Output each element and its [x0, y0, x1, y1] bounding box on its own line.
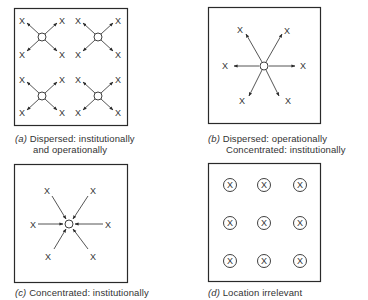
- caption-text: Location irrelevant: [223, 287, 303, 298]
- svg-text:X: X: [239, 96, 245, 106]
- svg-text:X: X: [115, 108, 121, 118]
- svg-text:X: X: [59, 16, 65, 26]
- panel-b: X X X X X X (b) Dispersed: operationally…: [184, 0, 368, 150]
- svg-text:X: X: [115, 16, 121, 26]
- svg-text:X: X: [59, 75, 65, 85]
- diagram-concentrated-institutionally: X X X X X X: [0, 150, 184, 300]
- panel-c: X X X X X X (c) Concentrated: institutio…: [0, 150, 184, 300]
- svg-text:X: X: [261, 256, 267, 266]
- svg-text:X: X: [75, 16, 81, 26]
- panel-a: XX XX XX XX XX XX: [0, 0, 184, 150]
- svg-text:X: X: [227, 180, 233, 190]
- svg-text:X: X: [285, 96, 291, 106]
- diagram-dispersed-both: XX XX XX XX XX XX: [0, 0, 184, 150]
- hub-group: XX XX: [75, 16, 121, 60]
- svg-text:X: X: [105, 220, 111, 230]
- svg-text:X: X: [90, 252, 96, 262]
- diagram-dispersed-operationally: X X X X X X: [184, 0, 368, 150]
- svg-text:X: X: [261, 218, 267, 228]
- svg-text:X: X: [297, 218, 303, 228]
- svg-text:X: X: [297, 180, 303, 190]
- svg-text:X: X: [300, 61, 306, 71]
- hub-group: XX XX: [19, 75, 65, 118]
- svg-text:X: X: [45, 252, 51, 262]
- svg-text:X: X: [261, 180, 267, 190]
- svg-text:X: X: [222, 61, 228, 71]
- caption-text: Dispersed: operationally: [223, 133, 327, 144]
- svg-text:X: X: [19, 50, 25, 60]
- svg-text:X: X: [115, 75, 121, 85]
- svg-text:X: X: [90, 186, 96, 196]
- caption-c: (c) Concentrated: institutionally: [15, 287, 149, 298]
- svg-text:X: X: [75, 50, 81, 60]
- svg-text:X: X: [297, 256, 303, 266]
- svg-text:X: X: [227, 218, 233, 228]
- hub-group: XX XX: [75, 75, 121, 118]
- diagram-location-irrelevant: XXX XXX XXX: [184, 150, 368, 300]
- caption-d: (d) Location irrelevant: [208, 287, 302, 298]
- svg-text:X: X: [237, 25, 243, 35]
- svg-text:X: X: [75, 108, 81, 118]
- caption-tag: (b): [208, 133, 220, 144]
- caption-text: Dispersed: institutionally: [30, 133, 135, 144]
- svg-text:X: X: [19, 108, 25, 118]
- svg-text:X: X: [30, 220, 36, 230]
- caption-text: Concentrated: institutionally: [29, 287, 149, 298]
- svg-text:X: X: [59, 50, 65, 60]
- svg-text:X: X: [44, 186, 50, 196]
- svg-text:X: X: [115, 50, 121, 60]
- caption-tag: (c): [15, 287, 26, 298]
- caption-tag: (a): [15, 133, 27, 144]
- hub-group: XX XX: [19, 16, 65, 60]
- svg-text:X: X: [59, 108, 65, 118]
- caption-tag: (d): [208, 287, 220, 298]
- svg-text:X: X: [19, 75, 25, 85]
- svg-text:X: X: [19, 16, 25, 26]
- svg-text:X: X: [284, 26, 290, 36]
- svg-text:X: X: [75, 75, 81, 85]
- panel-d: XXX XXX XXX (d) Location irrelevant: [184, 150, 368, 300]
- svg-text:X: X: [227, 256, 233, 266]
